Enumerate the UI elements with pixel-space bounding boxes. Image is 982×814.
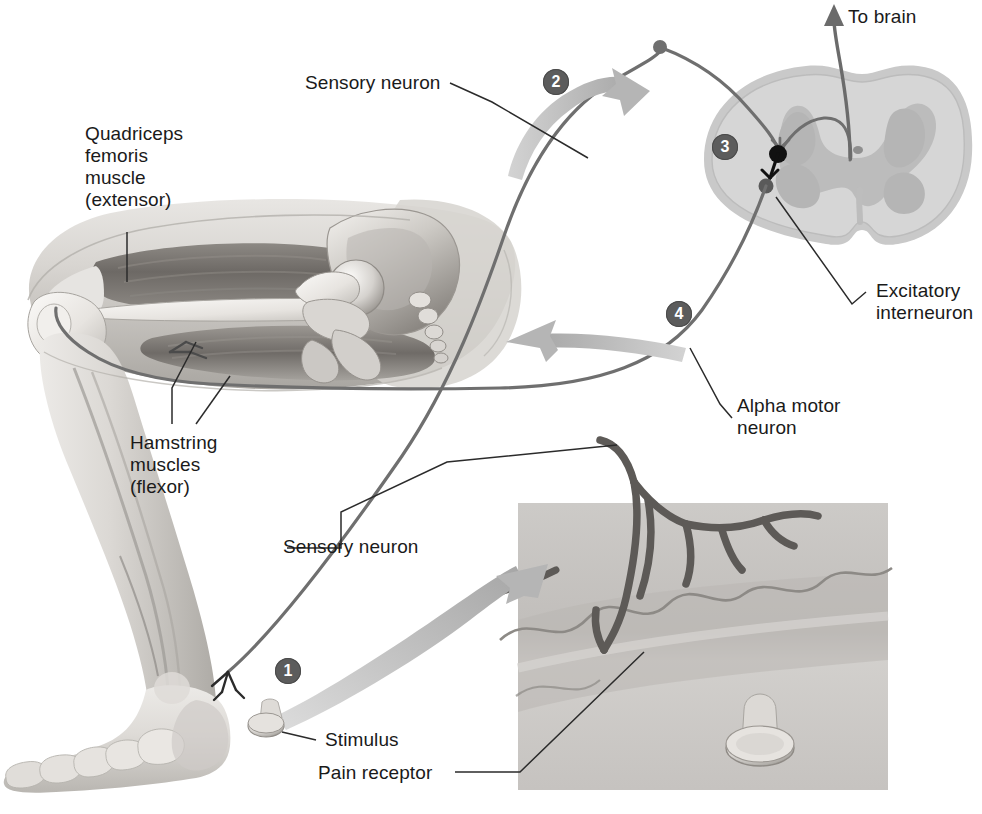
label-to-brain: To brain: [848, 6, 916, 28]
leader-alpha-motor: [690, 348, 732, 418]
central-canal: [853, 146, 863, 154]
arrow-to-muscle: [544, 334, 686, 362]
label-pain-receptor: Pain receptor: [318, 762, 432, 784]
label-excitatory-interneuron: Excitatory interneuron: [876, 280, 973, 324]
reflex-arc-diagram: Quadriceps femoris muscle (extensor) Ham…: [0, 0, 982, 814]
label-hamstring-muscles: Hamstring muscles (flexor): [130, 432, 217, 498]
label-quadriceps-femoris-muscle: Quadriceps femoris muscle (extensor): [85, 123, 183, 211]
leader-stimulus: [282, 732, 316, 740]
step-badge-3: 3: [712, 134, 738, 160]
label-sensory-neuron-bottom: Sensory neuron: [283, 536, 419, 558]
step-badge-2: 2: [543, 69, 569, 95]
sensory-cell-body: [653, 40, 667, 54]
foot-nerve-endings: [212, 672, 244, 700]
to-brain-arrowhead: [824, 4, 844, 26]
arrow-to-inset: [276, 566, 524, 730]
ankle-malleolus: [154, 672, 190, 704]
step-badge-1: 1: [275, 658, 301, 684]
label-sensory-neuron-top: Sensory neuron: [305, 72, 441, 94]
inset-panel-group: [494, 440, 892, 790]
step-badge-4: 4: [666, 301, 692, 327]
stimulus-tack: [248, 699, 284, 737]
label-stimulus: Stimulus: [325, 729, 399, 751]
spinal-cord-cross-section: [704, 65, 972, 244]
label-alpha-motor-neuron: Alpha motor neuron: [737, 395, 841, 439]
